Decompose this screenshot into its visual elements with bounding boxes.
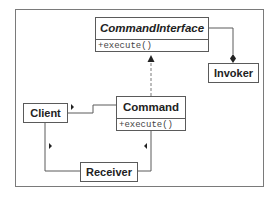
class-command-interface[interactable]: CommandInterface +execute() <box>95 17 209 52</box>
diamond-icon <box>230 54 236 63</box>
class-invoker[interactable]: Invoker <box>208 63 259 83</box>
class-name: Invoker <box>209 64 258 82</box>
command-receiver-association <box>138 131 151 171</box>
class-command[interactable]: Command +execute() <box>116 96 186 131</box>
navigability-arrow-icon <box>49 143 52 149</box>
aggregation-line <box>209 28 236 63</box>
navigability-arrow-icon <box>71 104 74 110</box>
class-receiver[interactable]: Receiver <box>80 162 138 182</box>
class-name: Command <box>117 97 185 118</box>
realization-arrow <box>148 55 155 96</box>
navigability-arrow-icon <box>144 143 147 149</box>
class-name: Client <box>24 104 67 122</box>
client-command-association <box>68 104 116 113</box>
client-receiver-association <box>45 123 80 171</box>
class-name: Receiver <box>81 163 137 181</box>
class-method: +execute() <box>117 118 185 131</box>
class-method: +execute() <box>96 39 208 52</box>
class-name: CommandInterface <box>96 18 208 39</box>
class-client[interactable]: Client <box>23 103 68 123</box>
